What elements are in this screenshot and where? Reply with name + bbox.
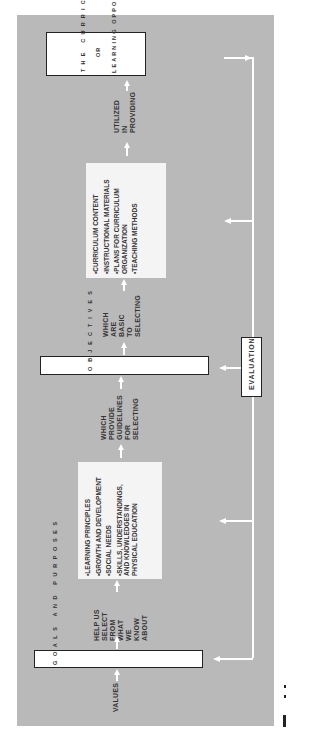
arrow-up-icon: [118, 444, 124, 450]
feedback-line: [252, 180, 254, 337]
objectives-label: OBJECTIVES: [87, 286, 93, 371]
knowledge-item: •SOCIAL NEEDS: [105, 464, 113, 576]
goals-label: GOALS AND PURPOSES: [52, 517, 58, 665]
content-item: •PLANS FOR CURRICULUM ORGANIZATION: [113, 184, 128, 274]
knowledge-item: •SKILLS, UNDERSTANDINGS, AND KNOWLEDGES …: [116, 476, 139, 576]
knowledge-item: •LEARNING PRINCIPLES: [84, 464, 92, 576]
content-item: •CURRICULUM CONTENT: [92, 164, 100, 274]
arrow-up-icon: [124, 142, 130, 148]
goals-box: [34, 650, 203, 668]
content-list: •CURRICULUM CONTENT •INSTRUCTIONAL MATER…: [92, 164, 142, 274]
knowledge-connector: WHICH PROVIDE GUIDELINES FOR SELECTING: [100, 395, 140, 440]
arrow-up-icon: [121, 342, 127, 348]
content-item: •TEACHING METHODS: [131, 164, 139, 274]
page-mark: [283, 715, 286, 727]
page-mark: [284, 695, 286, 698]
feedback-branch: [226, 367, 241, 369]
page-mark: [284, 685, 286, 688]
feedback-branch: [230, 220, 253, 222]
feedback-line: [252, 57, 254, 180]
arrow-left-icon: [219, 365, 226, 371]
objectives-connector: WHICH ARE BASIC TO SELECTING: [102, 295, 142, 337]
feedback-branch: [220, 658, 253, 660]
goals-connector: HELP US SELECT FROM WHAT WE KNOW ABOUT: [93, 609, 149, 641]
arrow-up-icon: [114, 580, 120, 586]
knowledge-item: •GROWTH AND DEVELOPMENT: [95, 464, 103, 576]
evaluation-label: EVALUATION: [248, 338, 256, 390]
arrow-up-icon: [121, 279, 127, 285]
objectives-box: [40, 356, 209, 375]
arrow-up-icon: [114, 636, 120, 642]
arrow-left-icon: [213, 656, 220, 662]
knowledge-list: •LEARNING PRINCIPLES •GROWTH AND DEVELOP…: [84, 464, 141, 576]
arrow-up-icon: [114, 669, 120, 675]
content-connector: UTILIZED IN PROVIDING: [113, 92, 137, 133]
arrow-left-icon: [219, 518, 226, 524]
feedback-branch: [226, 520, 253, 522]
content-item: •INSTRUCTIONAL MATERIALS: [103, 164, 111, 274]
arrow-shaft: [120, 381, 122, 389]
arrow-up-icon: [124, 80, 130, 86]
feedback-line: [252, 397, 254, 658]
arrow-up-icon: [118, 376, 124, 382]
arrow-right-icon: [245, 55, 252, 61]
curriculum-line3: LEARNING OPPORTUNITIES: [111, 0, 117, 73]
values-label: VALUES: [112, 683, 120, 712]
curriculum-line2: OR: [95, 47, 101, 57]
arrow-left-icon: [224, 218, 231, 224]
curriculum-line1: THE CURRICULUM: [80, 0, 86, 72]
